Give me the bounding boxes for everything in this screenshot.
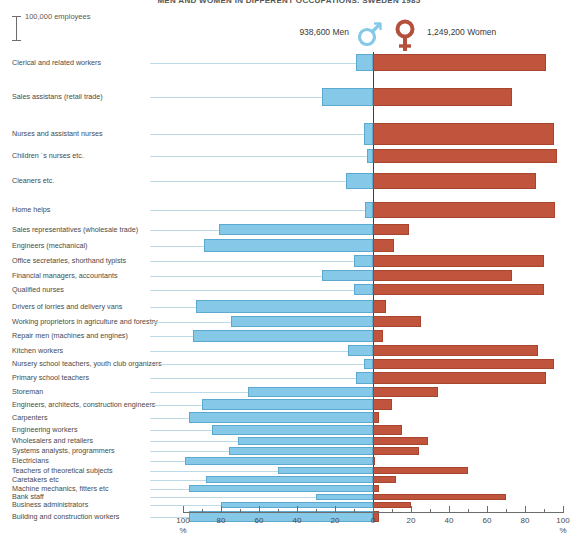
- axis-tick: [430, 509, 431, 513]
- leader-line: [150, 364, 364, 365]
- occupation-label: Storeman: [12, 387, 43, 396]
- occupation-label: Nursery school teachers, youth club orga…: [12, 359, 162, 368]
- men-bar: [229, 447, 373, 455]
- occupation-row: Sales representatives (wholesale trade): [0, 224, 578, 235]
- women-bar: [373, 345, 538, 356]
- leader-line: [150, 63, 356, 64]
- occupation-row: Machine mechanics, fitters etc: [0, 485, 578, 492]
- axis-tick: [259, 506, 260, 513]
- women-bar: [373, 239, 394, 252]
- axis-tick: [392, 509, 393, 513]
- axis-tick: [506, 509, 507, 513]
- occupation-label: Kitchen workers: [12, 346, 63, 355]
- occupation-row: Children ´s nurses etc.: [0, 149, 578, 163]
- women-bar: [373, 316, 421, 327]
- occupation-row: Clerical and related workers: [0, 54, 578, 71]
- leader-line: [150, 290, 354, 291]
- men-bar: [348, 345, 373, 356]
- leader-line: [150, 210, 365, 211]
- women-bar: [373, 457, 375, 465]
- scale-key: 100,000 employees: [12, 14, 132, 44]
- occupation-label: Qualified nurses: [12, 285, 64, 294]
- axis-tick: [183, 506, 184, 513]
- men-bar: [206, 476, 373, 483]
- axis-tick: [525, 506, 526, 513]
- men-bar: [322, 88, 373, 106]
- axis-tick: [221, 506, 222, 513]
- leader-line: [150, 392, 248, 393]
- leader-line: [150, 441, 238, 442]
- axis-tick: [240, 509, 241, 513]
- axis-label: 20: [322, 516, 348, 525]
- axis-tick: [316, 509, 317, 513]
- men-bar: [189, 485, 373, 492]
- women-bar: [373, 270, 512, 281]
- men-bar: [278, 467, 373, 474]
- occupation-label: Engineering workers: [12, 425, 78, 434]
- occupation-row: Working proprietors in agriculture and f…: [0, 316, 578, 327]
- occupation-row: Nursery school teachers, youth club orga…: [0, 359, 578, 369]
- men-bar: [238, 437, 373, 445]
- men-bar: [365, 202, 373, 218]
- axis-tick: [449, 506, 450, 513]
- men-bar: [231, 316, 374, 327]
- occupation-row: Storeman: [0, 387, 578, 397]
- chart-root: MEN AND WOMEN IN DIFFERENT OCCUPATIONS. …: [0, 0, 578, 554]
- occupation-label: Working proprietors in agriculture and f…: [12, 317, 158, 326]
- axis-tick: [373, 506, 374, 513]
- legend-men-label: 938,600 Men: [257, 27, 349, 37]
- women-bar: [373, 425, 402, 435]
- occupation-label: Engineers (mechanical): [12, 241, 88, 250]
- occupation-row: Home helps: [0, 202, 578, 218]
- leader-line: [150, 418, 189, 419]
- occupation-label: Carpenters: [12, 413, 48, 422]
- occupation-label: Nurses and assistant nurses: [12, 129, 103, 138]
- axis-tick: [278, 509, 279, 513]
- men-bar: [364, 359, 374, 369]
- leader-line: [150, 156, 367, 157]
- occupation-label: Children ´s nurses etc.: [12, 151, 84, 160]
- women-bar: [373, 202, 555, 218]
- axis-label: 100: [550, 516, 576, 525]
- women-bar: [373, 372, 546, 384]
- page-title: MEN AND WOMEN IN DIFFERENT OCCUPATIONS. …: [0, 0, 578, 3]
- occupation-row: Systems analysts, programmers: [0, 447, 578, 455]
- men-bar: [248, 387, 373, 397]
- axis-unit-left: %: [170, 526, 196, 535]
- women-bar: [373, 359, 554, 369]
- men-bar: [202, 399, 373, 410]
- occupation-label: Caretakers etc: [12, 475, 59, 484]
- axis-tick: [354, 509, 355, 513]
- women-bar: [373, 330, 383, 342]
- leader-line: [150, 405, 202, 406]
- axis-tick: [487, 506, 488, 513]
- men-bar: [193, 330, 374, 342]
- men-bar: [346, 173, 373, 189]
- leader-line: [150, 451, 229, 452]
- occupation-row: Engineers (mechanical): [0, 239, 578, 252]
- axis-unit-right: %: [550, 526, 576, 535]
- axis-label: 0: [360, 516, 386, 525]
- occupation-row: Office secretaries, shorthand typists: [0, 255, 578, 267]
- leader-line: [150, 497, 316, 498]
- occupation-label: Repair men (machines and engines): [12, 331, 128, 340]
- occupation-row: Financial managers, accountants: [0, 270, 578, 281]
- leader-line: [150, 430, 212, 431]
- women-bar: [373, 149, 557, 163]
- men-bar: [322, 270, 373, 281]
- leader-line: [150, 489, 189, 490]
- occupation-label: Systems analysts, programmers: [12, 446, 115, 455]
- men-bar: [316, 494, 373, 500]
- axis-tick: [544, 509, 545, 513]
- occupation-row: Sales assistans (retail trade): [0, 88, 578, 106]
- axis-tick: [563, 506, 564, 513]
- men-bar: [189, 412, 373, 423]
- women-bar: [373, 224, 409, 235]
- occupation-row: Primary school teachers: [0, 372, 578, 384]
- occupation-row: Caretakers etc: [0, 476, 578, 483]
- scale-key-label: 100,000 employees: [25, 12, 90, 21]
- women-bar: [373, 476, 396, 483]
- occupation-row: Wholesalers and retailers: [0, 437, 578, 445]
- axis-label: 80: [208, 516, 234, 525]
- women-bar: [373, 387, 438, 397]
